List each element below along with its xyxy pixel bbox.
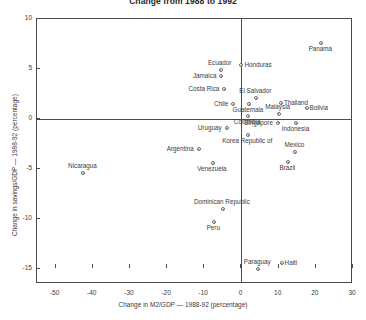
y-axis-tick bbox=[36, 18, 40, 19]
scatter-point bbox=[81, 171, 85, 175]
scatter-point-label: Indonesia bbox=[282, 125, 309, 132]
x-axis-tick-label: 20 bbox=[300, 289, 330, 296]
scatter-point-label: Chile bbox=[214, 100, 228, 107]
y-axis-tick-label: -5 bbox=[6, 164, 32, 171]
x-axis-tick-label: -30 bbox=[114, 289, 144, 296]
x-axis-tick bbox=[278, 264, 279, 268]
y-axis-tick bbox=[36, 118, 40, 119]
scatter-point-label: Costa Rica bbox=[189, 85, 220, 92]
scatter-point-label: Jamaica bbox=[193, 72, 216, 79]
scatter-point bbox=[239, 63, 243, 67]
y-axis-tick-label: -10 bbox=[6, 214, 32, 221]
y-axis-tick-label: 10 bbox=[6, 14, 32, 21]
scatter-point bbox=[197, 147, 201, 151]
y-axis-tick bbox=[36, 68, 40, 69]
scatter-point-label: Peru bbox=[207, 224, 220, 231]
x-axis-tick bbox=[240, 264, 241, 268]
x-axis-tick-label: -50 bbox=[40, 289, 70, 296]
scatter-point-label: Ecuador bbox=[208, 59, 231, 66]
plot-area bbox=[36, 18, 352, 283]
scatter-point bbox=[221, 207, 225, 211]
x-axis-tick-label: -40 bbox=[77, 289, 107, 296]
scatter-point-label: El Salvador bbox=[239, 87, 271, 94]
scatter-point-label: Guatemala bbox=[232, 106, 263, 113]
scatter-point-label: Bolivia bbox=[310, 104, 329, 111]
scatter-point-label: Brazil bbox=[279, 164, 295, 171]
scatter-point bbox=[225, 126, 229, 130]
x-axis-tick-label: 10 bbox=[263, 289, 293, 296]
x-axis-label: Change in M2/GDP — 1988-92 (percentage) bbox=[0, 301, 366, 308]
scatter-point bbox=[305, 106, 309, 110]
x-axis-tick bbox=[55, 264, 56, 268]
scatter-point-label: Uruguay bbox=[198, 124, 222, 131]
x-axis-tick bbox=[92, 264, 93, 268]
scatter-point bbox=[222, 87, 226, 91]
scatter-point-label: Nicaragua bbox=[68, 162, 97, 169]
scatter-point-label: Malaysia bbox=[265, 103, 290, 110]
x-axis-tick bbox=[166, 264, 167, 268]
scatter-point-label: Haiti bbox=[285, 259, 298, 266]
x-axis-tick-label: 30 bbox=[337, 289, 366, 296]
chart-figure: Change from 1988 to 1992 -50-40-30-20-10… bbox=[0, 0, 366, 320]
scatter-point bbox=[254, 96, 258, 100]
scatter-point-label: Honduras bbox=[244, 61, 271, 68]
scatter-point-label: Korea Republic of bbox=[222, 137, 272, 144]
scatter-point-label: Mexico bbox=[284, 141, 304, 148]
x-axis-tick-label: 0 bbox=[225, 289, 255, 296]
scatter-point-label: Panama bbox=[309, 45, 332, 52]
y-axis-tick bbox=[36, 218, 40, 219]
scatter-point bbox=[219, 74, 223, 78]
x-axis-tick-label: -10 bbox=[188, 289, 218, 296]
scatter-point-label: Venezuela bbox=[197, 165, 226, 172]
scatter-point bbox=[256, 267, 260, 271]
scatter-point bbox=[293, 150, 297, 154]
scatter-point bbox=[277, 112, 281, 116]
x-axis-tick bbox=[203, 264, 204, 268]
x-axis-tick-label: -20 bbox=[151, 289, 181, 296]
y-axis-label: Change in savings/GDP — 1988-92 (percent… bbox=[11, 94, 18, 236]
y-axis-tick bbox=[36, 168, 40, 169]
scatter-point-label: Argentina bbox=[167, 145, 194, 152]
y-axis-tick-label: 0 bbox=[6, 114, 32, 121]
y-axis-tick-label: 5 bbox=[6, 64, 32, 71]
scatter-point-label: Dominican Republic bbox=[194, 198, 250, 205]
scatter-point-label: Singapore bbox=[244, 118, 273, 125]
chart-title: Change from 1988 to 1992 bbox=[0, 0, 366, 6]
y-axis-tick-label: -15 bbox=[6, 264, 32, 271]
x-axis-tick bbox=[315, 264, 316, 268]
x-axis-tick bbox=[352, 264, 353, 268]
x-axis-tick bbox=[129, 264, 130, 268]
y-axis-tick bbox=[36, 268, 40, 269]
scatter-point-label: Paraguay bbox=[244, 258, 271, 265]
horizontal-reference-line bbox=[37, 119, 351, 120]
scatter-point bbox=[280, 261, 284, 265]
vertical-reference-line bbox=[241, 19, 242, 282]
scatter-point bbox=[276, 121, 280, 125]
scatter-point bbox=[219, 68, 223, 72]
